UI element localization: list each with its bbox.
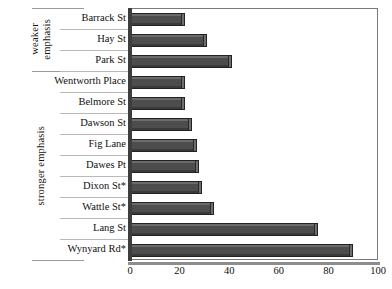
bar <box>130 97 185 110</box>
category-label-row: Fig Lane <box>88 134 126 155</box>
category-label: Belmore St <box>78 97 126 108</box>
bar-end-cap <box>195 161 198 172</box>
bar <box>130 55 232 68</box>
bar <box>130 34 207 47</box>
category-label-row: Wattle St* <box>82 197 126 218</box>
bar-end-cap <box>228 56 231 67</box>
bar <box>130 13 185 26</box>
bar-end-cap <box>210 203 213 214</box>
category-label-row: Wynyard Rd* <box>67 239 126 260</box>
category-label: Lang St <box>93 223 126 234</box>
bar <box>130 76 185 89</box>
category-axis: Barrack StHay StPark StWentworth PlaceBe… <box>60 8 130 260</box>
category-label: Dawes Pt <box>86 160 126 171</box>
bar <box>130 139 197 152</box>
x-axis-tick-label: 20 <box>174 266 185 277</box>
bar <box>130 160 199 173</box>
x-axis-tick-label: 0 <box>127 266 132 277</box>
group-label-weaker: weaker emphasis <box>29 19 53 60</box>
category-label: Park St <box>95 55 126 66</box>
category-label: Hay St <box>97 34 126 45</box>
bar <box>130 202 214 215</box>
category-label: Fig Lane <box>88 139 126 150</box>
bar-end-cap <box>193 140 196 151</box>
category-label-row: Dawes Pt <box>86 155 126 176</box>
group-band-stronger: stronger emphasis <box>18 71 64 260</box>
category-label: Barrack St <box>81 13 126 24</box>
bar-end-cap <box>203 35 206 46</box>
category-label-row: Barrack St <box>81 8 126 29</box>
x-axis-tick-label: 40 <box>224 266 235 277</box>
x-axis-tick-label: 100 <box>370 266 386 277</box>
x-axis-line <box>128 262 380 265</box>
group-band-weaker: weaker emphasis <box>18 8 64 71</box>
group-axis: weaker emphasis stronger emphasis <box>18 8 64 260</box>
bar <box>130 118 192 131</box>
bar-end-cap <box>349 245 352 256</box>
value-axis-line <box>128 8 132 261</box>
x-axis-tick-labels: 020406080100 <box>130 266 378 284</box>
bar-end-cap <box>198 182 201 193</box>
bar-end-cap <box>181 98 184 109</box>
x-axis-tick-label: 80 <box>323 266 334 277</box>
category-label: Wynyard Rd* <box>67 244 126 255</box>
group-separator-bottom <box>32 260 84 261</box>
category-label-row: Dixon St* <box>83 176 126 197</box>
bar-end-cap <box>314 224 317 235</box>
category-label: Wentworth Place <box>54 76 126 87</box>
category-label: Dawson St <box>80 118 126 129</box>
bar <box>130 223 318 236</box>
category-label-row: Park St <box>95 50 126 71</box>
category-label-row: Dawson St <box>80 113 126 134</box>
category-label: Wattle St* <box>82 202 126 213</box>
category-label: Dixon St* <box>83 181 126 192</box>
plot-area <box>130 8 378 260</box>
bar-series <box>130 9 378 261</box>
category-label-row: Wentworth Place <box>54 71 126 92</box>
bar-end-cap <box>188 119 191 130</box>
bar-end-cap <box>181 77 184 88</box>
category-label-row: Belmore St <box>78 92 126 113</box>
category-label-row: Hay St <box>97 29 126 50</box>
bar-end-cap <box>181 14 184 25</box>
bar <box>130 244 353 257</box>
x-axis-tick-label: 60 <box>274 266 285 277</box>
category-label-row: Lang St <box>93 218 126 239</box>
bar-chart: weaker emphasis stronger emphasis Barrac… <box>0 0 392 289</box>
bar <box>130 181 202 194</box>
group-label-stronger: stronger emphasis <box>35 126 47 206</box>
